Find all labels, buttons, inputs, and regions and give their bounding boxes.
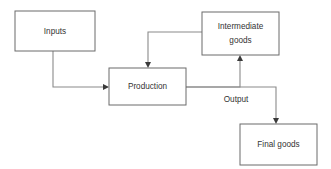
edge-inputs-to-production bbox=[53, 51, 104, 87]
node-inputs-label: Inputs bbox=[44, 27, 66, 36]
flow-diagram-canvas: Output Inputs Production Intermediate go… bbox=[0, 0, 331, 169]
edge-production-to-intermediate bbox=[186, 60, 240, 87]
edge-label-output: Output bbox=[224, 95, 249, 104]
arrowhead-intermediate-to-production bbox=[145, 62, 151, 68]
edge-intermediate-to-production bbox=[148, 32, 202, 63]
node-intermediate-goods[interactable]: Intermediate goods bbox=[202, 12, 279, 55]
node-inputs[interactable]: Inputs bbox=[15, 11, 95, 51]
node-intermediate-goods-box[interactable] bbox=[202, 12, 279, 55]
arrowhead-production-to-final-goods bbox=[273, 118, 279, 124]
node-final-goods-label: Final goods bbox=[257, 140, 299, 149]
node-intermediate-goods-label-line2: goods bbox=[229, 36, 251, 45]
arrowhead-inputs-to-production bbox=[103, 84, 109, 90]
node-group: Inputs Production Intermediate goods Fin… bbox=[15, 11, 317, 165]
node-final-goods[interactable]: Final goods bbox=[240, 124, 317, 165]
node-intermediate-goods-label-line1: Intermediate bbox=[218, 22, 264, 31]
node-production-label: Production bbox=[128, 82, 168, 91]
arrowhead-production-to-intermediate bbox=[237, 55, 243, 61]
node-production[interactable]: Production bbox=[109, 68, 186, 105]
flow-diagram: Output Inputs Production Intermediate go… bbox=[0, 0, 331, 169]
